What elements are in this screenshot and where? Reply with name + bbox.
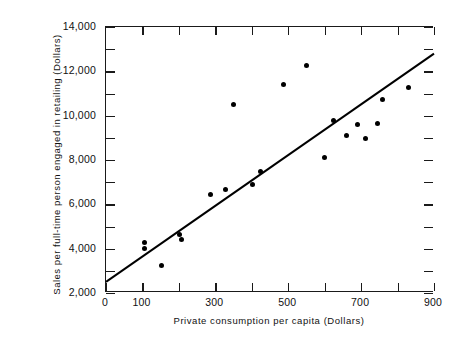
y-tick bbox=[106, 227, 115, 228]
plot-area bbox=[105, 26, 433, 292]
data-point bbox=[322, 155, 327, 160]
y-tick-right bbox=[424, 27, 433, 28]
y-tick bbox=[106, 94, 115, 95]
data-point bbox=[142, 240, 147, 245]
x-tick bbox=[142, 283, 143, 291]
y-tick bbox=[106, 71, 115, 72]
x-tick bbox=[288, 283, 289, 291]
y-tick bbox=[106, 160, 115, 161]
data-point bbox=[281, 82, 286, 87]
data-point bbox=[231, 102, 236, 107]
x-tick bbox=[398, 283, 399, 291]
data-point bbox=[304, 63, 309, 68]
y-tick bbox=[106, 182, 115, 183]
data-point bbox=[344, 133, 349, 138]
y-tick-right bbox=[424, 271, 433, 272]
y-tick-right bbox=[424, 182, 433, 183]
y-tick bbox=[106, 293, 115, 294]
fit-line-segment bbox=[106, 54, 434, 282]
data-point bbox=[331, 118, 336, 123]
y-tick-right bbox=[424, 227, 433, 228]
y-tick-right bbox=[424, 160, 433, 161]
data-point bbox=[208, 192, 213, 197]
data-point bbox=[223, 187, 228, 192]
x-tick-top bbox=[361, 27, 362, 35]
x-tick-top bbox=[288, 27, 289, 35]
x-tick-top bbox=[179, 27, 180, 35]
x-tick bbox=[434, 283, 435, 291]
x-tick-top bbox=[252, 27, 253, 35]
x-tick-label: 500 bbox=[278, 296, 296, 308]
y-axis-title: Sales per full-time person engaged in re… bbox=[51, 15, 62, 315]
y-tick-label: 10,000 bbox=[0, 109, 96, 121]
data-point bbox=[406, 85, 411, 90]
scatter-chart-figure: 0100300500700900 2,0004,0006,0008,00010,… bbox=[0, 0, 456, 343]
x-axis-title: Private consumption per capita (Dollars) bbox=[105, 315, 433, 326]
x-tick-label: 900 bbox=[424, 296, 442, 308]
x-tick-label: 300 bbox=[205, 296, 223, 308]
x-tick bbox=[106, 283, 107, 291]
y-tick-label: 12,000 bbox=[0, 64, 96, 76]
x-tick-label: 700 bbox=[351, 296, 369, 308]
y-tick bbox=[106, 116, 115, 117]
x-tick bbox=[215, 283, 216, 291]
y-tick-label: 8,000 bbox=[0, 153, 96, 165]
y-tick-right bbox=[424, 116, 433, 117]
data-point bbox=[363, 136, 368, 141]
y-tick-label: 4,000 bbox=[0, 242, 96, 254]
y-tick-right bbox=[424, 204, 433, 205]
data-point bbox=[355, 122, 360, 127]
y-tick-right bbox=[424, 293, 433, 294]
y-tick-right bbox=[424, 249, 433, 250]
data-point bbox=[250, 182, 255, 187]
y-tick bbox=[106, 204, 115, 205]
y-tick-right bbox=[424, 49, 433, 50]
y-tick bbox=[106, 249, 115, 250]
y-tick bbox=[106, 27, 115, 28]
y-tick-label: 2,000 bbox=[0, 286, 96, 298]
x-tick-top bbox=[325, 27, 326, 35]
y-tick-label: 6,000 bbox=[0, 197, 96, 209]
x-tick bbox=[252, 283, 253, 291]
y-tick bbox=[106, 138, 115, 139]
data-point bbox=[179, 237, 184, 242]
y-tick-right bbox=[424, 94, 433, 95]
y-tick bbox=[106, 271, 115, 272]
x-tick-top bbox=[215, 27, 216, 35]
y-tick-right bbox=[424, 71, 433, 72]
x-tick-top bbox=[398, 27, 399, 35]
y-tick bbox=[106, 49, 115, 50]
y-tick-label: 14,000 bbox=[0, 20, 96, 32]
x-tick-top bbox=[142, 27, 143, 35]
x-tick bbox=[179, 283, 180, 291]
x-tick-label: 0 bbox=[102, 296, 108, 308]
data-point bbox=[380, 97, 385, 102]
data-point bbox=[142, 246, 147, 251]
data-point bbox=[177, 232, 182, 237]
data-point bbox=[159, 263, 164, 268]
x-tick-top bbox=[434, 27, 435, 35]
data-point bbox=[375, 121, 380, 126]
y-tick-right bbox=[424, 138, 433, 139]
x-tick bbox=[361, 283, 362, 291]
x-tick-label: 100 bbox=[132, 296, 150, 308]
x-tick bbox=[325, 283, 326, 291]
regression-line bbox=[106, 27, 434, 293]
data-point bbox=[258, 169, 263, 174]
